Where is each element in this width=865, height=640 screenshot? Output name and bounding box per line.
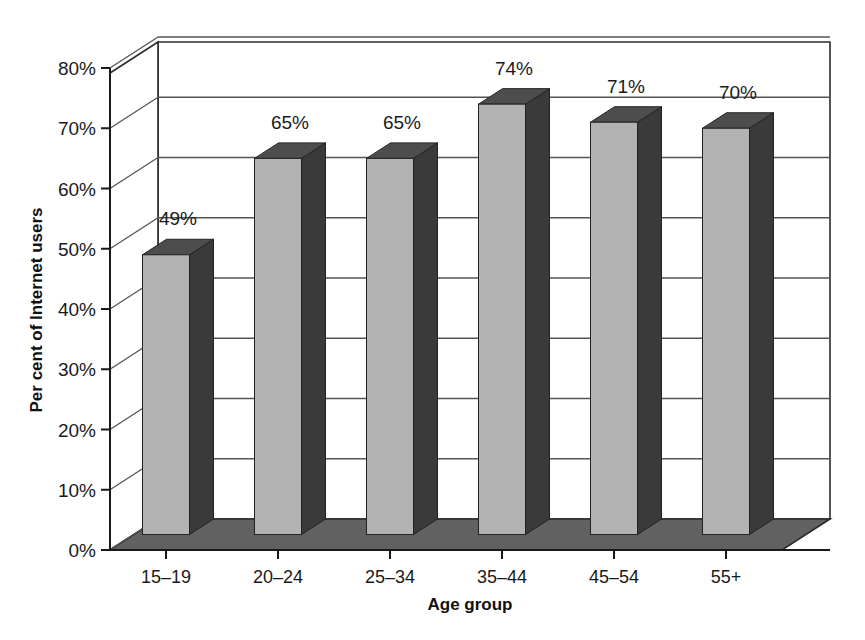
bar-column: [367, 143, 438, 535]
bar-value-label: 65%: [271, 112, 309, 133]
x-axis-title: Age group: [428, 595, 513, 614]
bar-front-face: [479, 104, 526, 534]
chart-figure: 0%10%20%30%40%50%60%70%80% 15–1920–2425–…: [0, 0, 865, 640]
bar-column: [255, 143, 326, 535]
category-label: 25–34: [365, 567, 415, 587]
y-tick-labels: 0%10%20%30%40%50%60%70%80%: [58, 58, 96, 561]
bar-front-face: [703, 128, 750, 534]
bar-side-face: [526, 89, 550, 535]
bar-value-label: 71%: [607, 76, 645, 97]
bar-front-face: [591, 122, 638, 534]
bar-front-face: [367, 158, 414, 534]
y-tick-label: 10%: [58, 480, 96, 501]
bar-front-face: [255, 158, 302, 534]
category-label: 35–44: [477, 567, 527, 587]
x-axis: [110, 550, 830, 559]
y-tick-label: 50%: [58, 239, 96, 260]
x-tick-marks: [166, 550, 726, 559]
bar-value-label: 49%: [159, 208, 197, 229]
y-tick-label: 70%: [58, 118, 96, 139]
bar-column: [143, 239, 214, 534]
y-tick-label: 0%: [69, 540, 97, 561]
bar-side-face: [750, 113, 774, 535]
y-tick-label: 80%: [58, 58, 96, 79]
y-tick-label: 30%: [58, 359, 96, 380]
bar-side-face: [414, 143, 438, 535]
bar-side-face: [638, 107, 662, 535]
y-axis-title: Per cent of Internet users: [27, 207, 46, 412]
bar-chart-svg: 0%10%20%30%40%50%60%70%80% 15–1920–2425–…: [0, 0, 865, 640]
y-tick-label: 60%: [58, 179, 96, 200]
bar-value-label: 70%: [719, 82, 757, 103]
bar-column: [591, 107, 662, 535]
category-label: 20–24: [253, 567, 303, 587]
bar-column: [703, 113, 774, 535]
bar-column: [479, 89, 550, 535]
bar-side-face: [302, 143, 326, 535]
bar-value-label: 74%: [495, 58, 533, 79]
category-label: 55+: [711, 567, 742, 587]
bar-value-label: 65%: [383, 112, 421, 133]
y-tick-marks: [101, 68, 110, 550]
category-labels: 15–1920–2425–3435–4445–5455+: [141, 567, 741, 587]
category-label: 45–54: [589, 567, 639, 587]
category-label: 15–19: [141, 567, 191, 587]
y-tick-label: 20%: [58, 420, 96, 441]
bar-front-face: [143, 255, 190, 535]
bar-side-face: [190, 239, 214, 534]
y-tick-label: 40%: [58, 299, 96, 320]
y-axis: [101, 68, 110, 550]
